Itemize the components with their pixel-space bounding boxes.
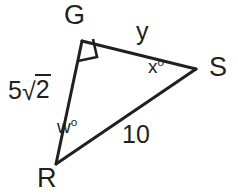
radical-coefficient: 5 [8,76,22,104]
radical-group: √2 [22,75,51,103]
vertex-label-r: R [37,165,57,192]
side-label-gr: 5√2 [8,75,51,103]
degree-symbol-w: o [71,115,78,128]
side-gr [56,41,82,164]
radical-sign: √ [22,79,36,104]
side-label-rs: 10 [122,122,150,147]
degree-symbol-x: o [158,55,165,68]
angle-label-s: xo [148,57,164,76]
angle-variable-x: x [148,56,158,77]
angle-variable-w: w [57,116,71,137]
vertex-label-g: G [64,2,85,29]
side-gs [82,41,196,69]
angle-label-r: wo [57,117,77,136]
side-label-gs: y [136,19,149,44]
vertex-label-s: S [209,54,227,81]
radicand: 2 [35,74,51,102]
